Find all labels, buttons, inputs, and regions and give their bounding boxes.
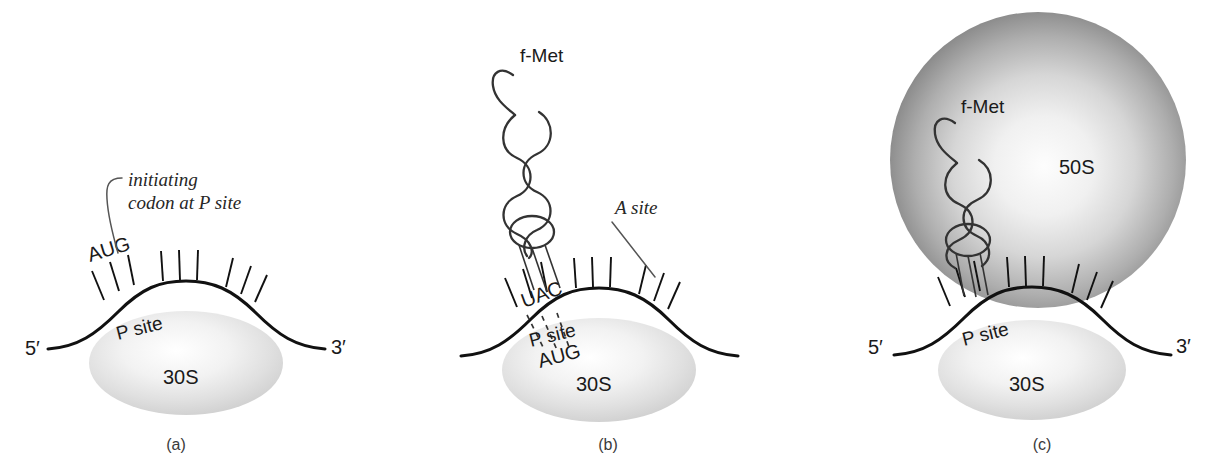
30s-label-c: 30S	[1009, 373, 1045, 395]
three-prime-label-a: 3′	[331, 336, 346, 358]
five-prime-label-c: 5′	[868, 336, 883, 358]
panel-c: f-Met 50S 5′ 3′ P site 30S (c)	[806, 0, 1209, 474]
panel-caption-a: (a)	[166, 436, 186, 453]
50s-label-c: 50S	[1059, 156, 1095, 178]
anticodon-label-b: UAC	[518, 277, 565, 312]
f-met-label-c: f-Met	[961, 96, 1005, 117]
30s-label-b: 30S	[576, 373, 612, 395]
panel-a: 5′ 3′ AUG P site 30S initiating codon at…	[0, 0, 403, 474]
a-site-leader-b	[612, 222, 655, 277]
panel-caption-c: (c)	[1033, 436, 1052, 453]
a-site-label-b: A site	[613, 197, 657, 218]
three-prime-label-c: 3′	[1176, 335, 1191, 357]
annotation-line2-a: codon at P site	[128, 192, 241, 213]
figure-initiation-of-translation: 5′ 3′ AUG P site 30S initiating codon at…	[0, 0, 1209, 474]
codon-ticks-a	[92, 250, 267, 302]
five-prime-label-a: 5′	[25, 337, 40, 359]
f-met-label-b: f-Met	[520, 45, 564, 66]
panel-caption-b: (b)	[598, 436, 618, 453]
50s-subunit-shape-c	[890, 12, 1186, 308]
trna-initiator-b	[493, 71, 560, 292]
panel-b: f-Met UAC AUG A site P site 30S (b)	[403, 0, 806, 474]
30s-label-a: 30S	[163, 366, 199, 388]
codon-label-a: AUG	[85, 232, 133, 266]
annotation-line1-a: initiating	[128, 169, 198, 190]
